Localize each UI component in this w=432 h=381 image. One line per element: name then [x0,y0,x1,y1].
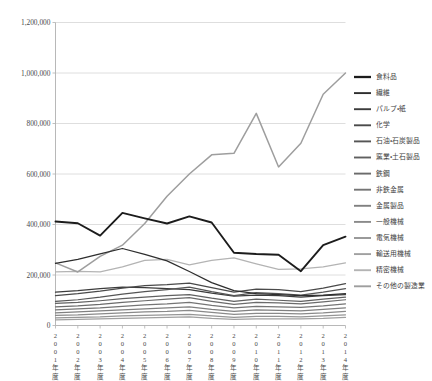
x-axis-tick-label-char: 度 [342,372,349,381]
legend-label: 鉄鋼 [376,169,390,178]
x-axis-tick-label-char: 0 [54,340,58,347]
x-axis-tick-label-char: 2 [232,332,235,339]
y-axis-tick-label: 400,000 [26,220,50,229]
x-axis-tick-label-char: 度 [253,372,260,381]
x-axis-tick-label-char: 度 [119,372,126,381]
y-axis-tick-label: 200,000 [26,271,50,280]
x-axis-tick-label-char: 0 [299,340,303,347]
x-axis-tick-label: 2010年度 [253,332,260,381]
x-axis-tick-label-char: 度 [141,372,148,381]
x-axis-tick-label-char: 2 [299,356,302,363]
x-axis-tick-label-char: 2 [322,332,325,339]
x-axis-tick-label-char: 9 [232,356,236,363]
x-axis-tick-label-char: 度 [275,372,282,381]
legend-item[interactable]: 電気機械 [354,233,404,242]
x-axis-tick-label-char: 1 [54,356,57,363]
legend-item[interactable]: パルプ・紙 [354,104,406,113]
x-axis-tick-label-char: 2 [299,332,302,339]
x-axis-tick-label-char: 0 [188,348,192,355]
y-axis-tick-labels: 0200,000400,000600,000800,0001,000,0001,… [21,18,56,330]
line-chart: 0200,000400,000600,000800,0001,000,0001,… [0,0,432,381]
x-axis-tick-label-char: 2 [76,356,79,363]
legend-item[interactable]: 鉄鋼 [354,169,390,178]
x-axis-tick-label-char: 年 [275,363,282,372]
legend-item[interactable]: 金属製品 [354,201,404,210]
x-axis-tick-label-char: 年 [119,363,126,372]
legend-item[interactable]: 精密機械 [354,265,404,274]
legend-label: 金属製品 [376,201,404,210]
x-axis-tick-label-char: 0 [54,348,58,355]
x-axis-tick-label-char: 7 [188,356,192,363]
x-axis-tick-label: 2004年度 [119,332,126,381]
x-axis-tick-label-char: 度 [320,372,327,381]
x-axis-tick-label-char: 0 [121,348,125,355]
x-axis-tick-label-char: 度 [297,372,304,381]
x-axis-tick-label-char: 度 [230,372,237,381]
x-axis-tick-label-char: 1 [322,348,325,355]
x-axis-tick-label-char: 年 [297,363,304,372]
x-axis-tick-label-char: 1 [344,348,347,355]
y-axis-tick-label: 600,000 [26,170,50,179]
x-axis-tick-label-char: 度 [164,372,171,381]
x-axis-tick-labels: 2001年度2002年度2003年度2004年度2005年度2006年度2007… [52,332,349,381]
legend-label: 化学 [376,120,390,129]
x-axis-tick-label-char: 2 [344,332,347,339]
x-axis-tick-label-char: 0 [76,348,80,355]
x-axis-tick-label-char: 0 [255,340,259,347]
x-axis-tick-label-char: 0 [98,348,102,355]
x-axis-tick-label-char: 3 [98,356,102,363]
x-axis-tick-label-char: 度 [97,372,104,381]
legend-item[interactable]: その他の製造業 [354,281,425,290]
x-axis-tick-label-char: 2 [143,332,146,339]
x-axis-tick-label-char: 1 [277,356,280,363]
y-axis-tick-label: 800,000 [26,119,50,128]
legend-item[interactable]: 石油・石炭製品 [354,136,420,145]
legend-item[interactable]: 食料品 [354,72,397,81]
x-axis-tick-label: 2008年度 [208,332,215,381]
x-axis-tick-label-char: 0 [165,348,169,355]
x-axis-tick-label: 2002年度 [74,332,81,381]
x-axis-tick-label-char: 0 [143,348,147,355]
x-axis-tick-label: 2014年度 [342,332,349,381]
legend-label: 繊維 [376,88,390,97]
legend-item[interactable]: 窯業・土石製品 [354,152,420,161]
x-axis-tick-label: 2003年度 [97,332,104,381]
x-axis-tick-label-char: 6 [165,356,169,363]
x-axis-tick-label-char: 0 [232,340,236,347]
legend-item[interactable]: 輸送用機械 [354,249,411,258]
x-axis-tick-label-char: 5 [143,356,147,363]
x-axis-tick-label-char: 0 [121,340,125,347]
x-axis-tick-label-char: 0 [165,340,169,347]
x-axis-tick-label-char: 1 [277,348,280,355]
x-axis-tick-label-char: 0 [255,356,259,363]
x-axis-tick-label-char: 4 [121,356,125,363]
x-axis-tick-label-char: 年 [52,363,59,372]
y-axis-tick-label: 1,200,000 [21,18,51,27]
legend-label: 一般機械 [376,217,404,226]
legend-label: その他の製造業 [376,281,425,290]
legend-item[interactable]: 非鉄金属 [354,185,404,194]
x-axis-tick-label-char: 0 [322,340,326,347]
x-axis-tick-label-char: 年 [230,363,237,372]
legend-label: 輸送用機械 [376,249,411,258]
x-axis-tick-label-char: 4 [344,356,348,363]
data-series-group [56,73,346,320]
x-axis-tick-label-char: 0 [98,340,102,347]
gridlines [56,23,346,276]
x-axis-tick-label-char: 年 [342,363,349,372]
x-axis-tick-label-char: 2 [98,332,101,339]
legend-item[interactable]: 繊維 [354,88,390,97]
x-axis-tick-label-char: 2 [76,332,79,339]
legend: 食料品繊維パルプ・紙化学石油・石炭製品窯業・土石製品鉄鋼非鉄金属金属製品一般機械… [354,72,425,290]
chart-canvas: 0200,000400,000600,000800,0001,000,0001,… [0,0,432,381]
x-axis-tick-label-char: 0 [76,340,80,347]
x-axis-tick-label-char: 年 [141,363,148,372]
x-axis-tick-label-char: 2 [54,332,57,339]
legend-item[interactable]: 化学 [354,120,390,129]
x-axis-tick-label-char: 0 [277,340,281,347]
legend-label: 窯業・土石製品 [376,152,420,161]
legend-label: 非鉄金属 [376,185,404,194]
x-axis-tick-label: 2005年度 [141,332,148,381]
x-axis-tick-label-char: 2 [277,332,280,339]
legend-item[interactable]: 一般機械 [354,217,404,226]
